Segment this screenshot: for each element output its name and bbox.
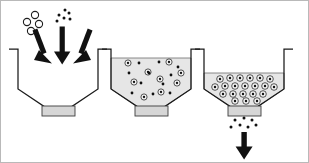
- free-dot-icon: [230, 126, 233, 129]
- encapsulated-particle: [271, 84, 278, 91]
- stage-discharge: [195, 49, 293, 160]
- free-dot-icon: [64, 9, 67, 12]
- outlet-valve-2[interactable]: [135, 106, 168, 116]
- encapsulated-particle: [257, 75, 264, 82]
- encapsulated-particle: [212, 84, 219, 91]
- free-dot-icon: [138, 62, 141, 65]
- encapsulated-particle: [242, 83, 249, 90]
- free-dot-icon: [239, 124, 242, 127]
- free-dot-icon: [169, 92, 172, 95]
- free-dot-icon: [247, 126, 250, 129]
- free-dot-icon: [128, 72, 131, 75]
- encapsulated-particle: [141, 94, 147, 100]
- outlet-valve-1[interactable]: [42, 106, 75, 116]
- encapsulated-particle: [254, 98, 261, 105]
- encapsulated-particle: [240, 91, 247, 98]
- encapsulated-particle: [158, 89, 164, 95]
- encapsulated-particle: [247, 75, 254, 82]
- free-dot-icon: [63, 17, 66, 20]
- encapsulated-particle: [222, 83, 229, 90]
- free-dot-icon: [68, 12, 71, 15]
- free-dot-icon: [152, 93, 155, 96]
- encapsulated-particle: [232, 83, 239, 90]
- encapsulated-particle: [220, 91, 227, 98]
- free-dot-icon: [251, 119, 254, 122]
- diagram-canvas: [1, 1, 309, 163]
- free-dot-icon: [140, 82, 143, 85]
- free-dot-icon: [162, 83, 165, 86]
- encapsulated-particle: [227, 75, 234, 82]
- discharge-arrow-icon: [236, 132, 253, 160]
- outlet-valve-3[interactable]: [228, 106, 261, 116]
- encapsulated-particle: [125, 60, 131, 66]
- open-circle-icon: [23, 18, 30, 25]
- free-dot-icon: [158, 61, 161, 64]
- encapsulated-particle: [260, 91, 267, 98]
- encapsulated-particle: [230, 91, 237, 98]
- discharge-dot-group: [230, 117, 258, 129]
- free-dot-icon: [148, 72, 151, 75]
- free-dot-icon: [177, 66, 180, 69]
- feed-arrow-right-icon: [73, 29, 93, 64]
- encapsulated-particle: [262, 83, 269, 90]
- encapsulated-particle: [166, 59, 172, 65]
- encapsulated-particle: [267, 76, 274, 83]
- free-dot-group: [56, 9, 72, 23]
- feed-arrow-center-icon: [54, 27, 70, 65]
- stage-suspension: [102, 49, 200, 116]
- process-diagram-figure: Three-stage particle encapsulation and d…: [0, 0, 309, 163]
- encapsulated-particle: [131, 79, 137, 85]
- stage-charging: [9, 9, 107, 117]
- encapsulated-particle: [243, 98, 250, 105]
- encapsulated-particle: [178, 70, 184, 76]
- encapsulated-particle: [252, 83, 259, 90]
- encapsulated-particle: [250, 91, 257, 98]
- encapsulated-particle: [232, 98, 239, 105]
- free-dot-icon: [243, 117, 246, 120]
- feed-arrow-group: [33, 27, 93, 65]
- feed-arrow-left-icon: [33, 29, 53, 64]
- free-dot-icon: [58, 14, 61, 17]
- encapsulated-particle: [174, 80, 180, 86]
- free-dot-icon: [56, 20, 59, 23]
- open-circle-icon: [35, 20, 42, 27]
- free-dot-icon: [131, 92, 134, 95]
- free-dot-icon: [170, 74, 173, 77]
- encapsulated-particle: [217, 76, 224, 83]
- free-dot-icon: [69, 18, 72, 21]
- encapsulated-particle: [145, 69, 151, 75]
- free-dot-icon: [234, 119, 237, 122]
- free-dot-icon: [255, 124, 258, 127]
- encapsulated-particle: [237, 75, 244, 82]
- encapsulated-particle: [157, 76, 163, 82]
- open-circle-icon: [31, 11, 38, 18]
